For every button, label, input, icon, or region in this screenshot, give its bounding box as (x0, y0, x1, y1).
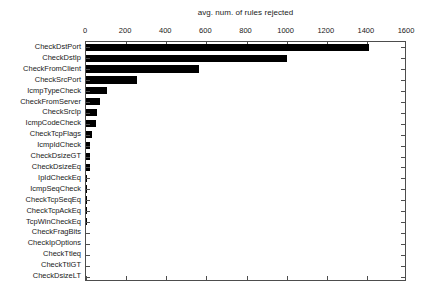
x-tick-label: 0 (83, 26, 87, 36)
y-tick-mark (86, 266, 90, 267)
bar-row (86, 195, 407, 206)
y-category-label: CheckFromClient (23, 64, 81, 73)
x-axis-tick-labels: 02004006008001000120014001600 (0, 26, 426, 38)
y-tick-mark (401, 80, 405, 81)
y-category-label: IcmpCodeCheck (26, 118, 81, 127)
y-tick-mark (86, 58, 90, 59)
x-tick-label: 1000 (277, 26, 294, 36)
chart-title: avg. num. of rules rejected (85, 8, 406, 18)
y-tick-mark (401, 102, 405, 103)
bar-row (86, 140, 407, 151)
y-category-label: IcmpIdCheck (37, 140, 81, 149)
bar-row (86, 162, 407, 173)
y-tick-mark (86, 244, 90, 245)
bar-row (86, 64, 407, 75)
y-category-label: CheckDstPort (35, 42, 81, 51)
bar-row (86, 86, 407, 97)
bar-row (86, 238, 407, 249)
y-tick-mark (401, 58, 405, 59)
bar-row (86, 173, 407, 184)
x-tick-label: 1600 (398, 26, 415, 36)
x-tick-label: 600 (199, 26, 212, 36)
bar-row (86, 206, 407, 217)
y-category-label: CheckTcpFlags (30, 129, 81, 138)
y-tick-mark (86, 277, 90, 278)
y-tick-mark (401, 255, 405, 256)
y-tick-mark (401, 47, 405, 48)
bar-row (86, 151, 407, 162)
x-tick-label: 800 (239, 26, 252, 36)
plot-area (85, 41, 406, 281)
y-category-label: CheckDsizeEq (32, 162, 81, 171)
y-category-label: CheckFragBits (32, 227, 81, 236)
y-tick-mark (401, 91, 405, 92)
y-tick-mark (86, 200, 90, 201)
y-tick-mark (401, 200, 405, 201)
y-tick-mark (86, 91, 90, 92)
y-tick-mark (401, 211, 405, 212)
bar-row (86, 260, 407, 271)
x-tick-label: 1400 (358, 26, 375, 36)
bar (86, 44, 369, 51)
y-category-label: IpIdCheckEq (38, 173, 81, 182)
bar (86, 76, 137, 83)
y-tick-mark (86, 211, 90, 212)
y-tick-mark (86, 124, 90, 125)
y-category-label: IcmpSeqCheck (30, 184, 81, 193)
bar-row (86, 271, 407, 282)
y-tick-mark (401, 135, 405, 136)
y-tick-mark (401, 277, 405, 278)
y-tick-mark (401, 157, 405, 158)
y-category-label: CheckSrcPort (35, 75, 81, 84)
bars-layer (86, 42, 405, 280)
y-category-label: CheckFromServer (20, 97, 81, 106)
y-tick-mark (86, 255, 90, 256)
y-category-label: CheckDsizeGT (31, 151, 81, 160)
y-tick-mark (86, 135, 90, 136)
y-tick-mark (86, 113, 90, 114)
y-tick-mark (401, 233, 405, 234)
y-tick-mark (86, 69, 90, 70)
y-tick-mark (401, 124, 405, 125)
bar-row (86, 129, 407, 140)
y-tick-mark (401, 178, 405, 179)
y-tick-mark (86, 157, 90, 158)
bar-row (86, 249, 407, 260)
y-category-label: CheckDstIp (42, 53, 81, 62)
bar-row (86, 227, 407, 238)
y-tick-mark (401, 244, 405, 245)
bar-row (86, 75, 407, 86)
bar-row (86, 53, 407, 64)
y-tick-mark (401, 146, 405, 147)
y-tick-mark (401, 266, 405, 267)
y-tick-mark (86, 47, 90, 48)
bar-chart-figure: avg. num. of rules rejected 020040060080… (0, 0, 426, 300)
bar-row (86, 97, 407, 108)
y-tick-mark (401, 167, 405, 168)
y-category-label: TcpWinCheckEq (26, 217, 81, 226)
y-tick-mark (86, 178, 90, 179)
y-tick-mark (86, 167, 90, 168)
y-tick-mark (86, 146, 90, 147)
y-tick-mark (86, 102, 90, 103)
x-tick-label: 200 (119, 26, 132, 36)
y-category-label: CheckTcpAckEq (26, 206, 81, 215)
y-tick-mark (401, 189, 405, 190)
y-tick-mark (401, 69, 405, 70)
y-tick-mark (86, 80, 90, 81)
y-tick-mark (401, 222, 405, 223)
bar-row (86, 42, 407, 53)
y-category-label: CheckTtlGT (41, 260, 81, 269)
bar-row (86, 184, 407, 195)
bar (86, 55, 287, 62)
y-tick-mark (401, 113, 405, 114)
y-category-label: CheckTcpSeqEq (26, 195, 81, 204)
bar (86, 65, 199, 72)
bar-row (86, 107, 407, 118)
y-category-label: CheckSrcIp (42, 107, 81, 116)
y-category-label: CheckTtleq (43, 249, 81, 258)
bar-row (86, 217, 407, 228)
y-axis-category-labels: CheckDstPortCheckDstIpCheckFromClientChe… (0, 41, 81, 281)
x-tick-label: 1200 (317, 26, 334, 36)
bar-row (86, 118, 407, 129)
